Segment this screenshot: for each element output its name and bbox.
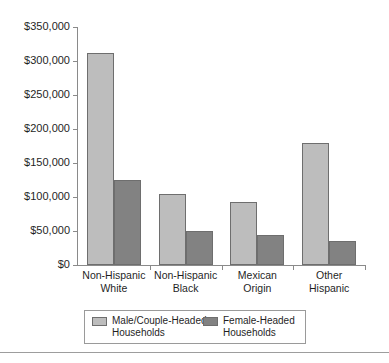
y-axis-tick-label: $50,000 <box>30 225 70 236</box>
x-axis-tick-mark <box>365 265 366 270</box>
y-axis-tick-label: $350,000 <box>24 21 70 32</box>
y-axis-tick-label: $200,000 <box>24 123 70 134</box>
legend-entry-female-headed: Female-Headed Households <box>203 315 295 339</box>
y-axis-tick-label: $100,000 <box>24 191 70 202</box>
y-axis-tick-label: $150,000 <box>24 157 70 168</box>
bar-group <box>87 27 141 265</box>
bar-male-couple-headed <box>302 143 329 265</box>
legend-swatch-female-headed <box>203 317 218 326</box>
legend-label-male-couple-headed: Male/Couple-Headed Households <box>112 315 207 339</box>
chart-legend: Male/Couple-Headed Households Female-Hea… <box>84 310 306 344</box>
legend-swatch-male-couple-headed <box>92 317 107 326</box>
bottom-horizontal-rule <box>0 352 389 353</box>
y-axis-tick-label: $300,000 <box>24 55 70 66</box>
bar-female-headed <box>257 235 284 265</box>
household-wealth-bar-chart: $0$50,000$100,000$150,000$200,000$250,00… <box>0 0 389 363</box>
bar-male-couple-headed <box>230 202 257 265</box>
legend-entry-male-couple-headed: Male/Couple-Headed Households <box>92 315 207 339</box>
y-axis-tick-mark <box>73 27 78 28</box>
legend-label-female-headed: Female-Headed Households <box>223 315 295 339</box>
x-axis-category-label: Other Hispanic <box>293 269 365 294</box>
y-axis-tick-mark <box>73 197 78 198</box>
bar-female-headed <box>114 180 141 265</box>
bar-group <box>230 27 284 265</box>
bar-female-headed <box>329 241 356 265</box>
x-axis-category-label: Non-Hispanic Black <box>150 269 222 294</box>
y-axis-tick-mark <box>73 265 78 266</box>
y-axis-tick-mark <box>73 61 78 62</box>
bar-male-couple-headed <box>87 53 114 265</box>
bar-group <box>159 27 213 265</box>
bar-female-headed <box>186 231 213 265</box>
bar-group <box>302 27 356 265</box>
y-axis-tick-mark <box>73 163 78 164</box>
x-axis-category-label: Non-Hispanic White <box>78 269 150 294</box>
y-axis-tick-label: $250,000 <box>24 89 70 100</box>
y-axis-tick-mark <box>73 231 78 232</box>
y-axis-tick-mark <box>73 129 78 130</box>
x-axis-category-label: Mexican Origin <box>222 269 294 294</box>
y-axis-tick-mark <box>73 95 78 96</box>
y-axis-tick-label: $0 <box>58 259 70 270</box>
bar-male-couple-headed <box>159 194 186 265</box>
